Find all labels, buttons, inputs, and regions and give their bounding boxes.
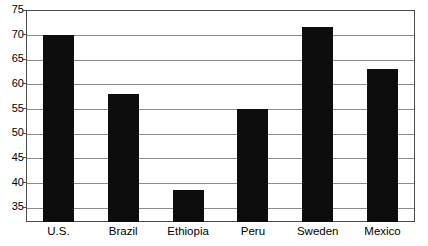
x-tick-label: Sweden	[285, 224, 350, 238]
y-tick-label: 45	[0, 152, 24, 163]
x-tick-label: Mexico	[350, 224, 415, 238]
y-tick-label: 55	[0, 103, 24, 114]
y-axis: 354045505560657075	[0, 0, 24, 246]
y-tick-mark	[22, 108, 26, 109]
x-tick-label: Peru	[221, 224, 286, 238]
bar	[173, 190, 204, 222]
y-tick-mark	[22, 10, 26, 11]
bar	[237, 109, 268, 222]
bars-container	[26, 10, 415, 222]
bar	[302, 27, 333, 222]
y-tick-label: 65	[0, 53, 24, 64]
y-tick-label: 70	[0, 29, 24, 40]
x-axis: U.S.BrazilEthiopiaPeruSwedenMexico	[26, 224, 415, 244]
y-tick-mark	[22, 157, 26, 158]
y-tick-mark	[22, 182, 26, 183]
bar-chart: 354045505560657075 U.S.BrazilEthiopiaPer…	[0, 0, 428, 246]
bar	[108, 94, 139, 222]
y-tick-label: 50	[0, 127, 24, 138]
x-tick-label: Brazil	[91, 224, 156, 238]
y-tick-mark	[22, 83, 26, 84]
bar	[43, 35, 74, 222]
y-tick-mark	[22, 133, 26, 134]
x-tick-label: Ethiopia	[156, 224, 221, 238]
y-tick-label: 75	[0, 4, 24, 15]
y-tick-label: 40	[0, 177, 24, 188]
y-tick-mark	[22, 34, 26, 35]
y-tick-mark	[22, 207, 26, 208]
y-tick-mark	[22, 59, 26, 60]
y-tick-label: 35	[0, 201, 24, 212]
y-tick-label: 60	[0, 78, 24, 89]
bar	[367, 69, 398, 222]
x-tick-label: U.S.	[26, 224, 91, 238]
